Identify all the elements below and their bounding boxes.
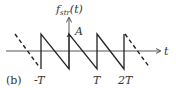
tick-label-2t: 2T (117, 74, 134, 87)
x-axis-label: t (164, 45, 169, 58)
tick-label-minus-t: -T (34, 74, 46, 87)
amplitude-label: A (74, 25, 83, 38)
panel-label: (b) (6, 74, 22, 87)
sawtooth-waveform (41, 34, 124, 69)
tick-label-t: T (93, 74, 102, 87)
y-axis-label: fstr(t) (55, 3, 83, 17)
sawtooth-diagram: fstr(t) A t (b) -T T 2T (0, 0, 176, 88)
